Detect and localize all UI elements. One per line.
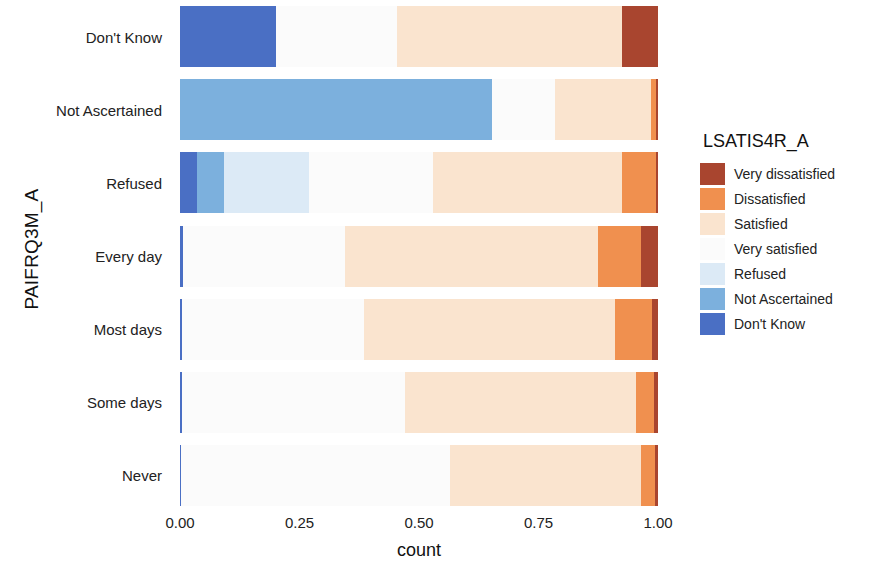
legend-title: LSATIS4R_A — [703, 131, 874, 152]
bar-segment[interactable] — [309, 152, 433, 213]
legend-item[interactable]: Refused — [700, 261, 874, 286]
bar-segment[interactable] — [182, 299, 364, 360]
legend-swatch-icon — [700, 213, 725, 235]
bar-segment[interactable] — [656, 79, 658, 140]
bar-segment[interactable] — [492, 79, 555, 140]
y-axis-tick-label: Every day — [2, 248, 162, 265]
legend-item-label: Dissatisfied — [734, 191, 806, 207]
bar-row[interactable] — [180, 226, 658, 287]
bar-segment[interactable] — [224, 152, 309, 213]
legend-item[interactable]: Dissatisfied — [700, 186, 874, 211]
bar-segment[interactable] — [636, 372, 654, 433]
bar-row[interactable] — [180, 6, 658, 67]
x-axis-title: count — [180, 540, 658, 561]
bar-segment[interactable] — [655, 445, 658, 506]
bar-segment[interactable] — [345, 226, 598, 287]
y-axis-tick-label: Not Ascertained — [2, 101, 162, 118]
bar-segment[interactable] — [197, 152, 224, 213]
x-axis-tick-label: 0.25 — [285, 514, 314, 531]
y-axis-tick-label: Most days — [2, 321, 162, 338]
legend-swatch-icon — [700, 188, 725, 210]
legend-item-label: Not Ascertained — [734, 291, 833, 307]
legend-swatch-icon — [700, 238, 725, 260]
bar-row[interactable] — [180, 299, 658, 360]
x-axis-tick-label: 0.00 — [165, 514, 194, 531]
bar-segment[interactable] — [652, 299, 658, 360]
bar-segment[interactable] — [598, 226, 641, 287]
legend-items: Very dissatisfiedDissatisfiedSatisfiedVe… — [700, 161, 874, 336]
legend-item-label: Refused — [734, 266, 786, 282]
legend: LSATIS4R_A Very dissatisfiedDissatisfied… — [700, 131, 874, 336]
legend-item[interactable]: Very dissatisfied — [700, 161, 874, 186]
legend-item[interactable]: Satisfied — [700, 211, 874, 236]
bar-row[interactable] — [180, 445, 658, 506]
bar-segment[interactable] — [622, 6, 658, 67]
legend-swatch-icon — [700, 163, 725, 185]
legend-swatch-icon — [700, 288, 725, 310]
legend-item[interactable]: Very satisfied — [700, 236, 874, 261]
x-axis-tick-label: 0.75 — [524, 514, 553, 531]
bar-segment[interactable] — [183, 226, 345, 287]
bar-segment[interactable] — [641, 226, 658, 287]
y-axis-tick-label: Some days — [2, 394, 162, 411]
x-axis-tick-labels: 0.000.250.500.751.00 — [180, 514, 658, 538]
y-axis-tick-label: Refused — [2, 174, 162, 191]
bar-segment[interactable] — [555, 79, 651, 140]
legend-item[interactable]: Don't Know — [700, 311, 874, 336]
legend-item-label: Satisfied — [734, 216, 788, 232]
bar-row[interactable] — [180, 152, 658, 213]
bar-segment[interactable] — [397, 6, 622, 67]
bar-segment[interactable] — [182, 372, 405, 433]
bar-row[interactable] — [180, 372, 658, 433]
y-axis-tick-label: Never — [2, 467, 162, 484]
bar-segment[interactable] — [180, 6, 276, 67]
y-axis-tick-label: Don't Know — [2, 28, 162, 45]
bar-segment[interactable] — [180, 152, 197, 213]
bar-segment[interactable] — [615, 299, 652, 360]
y-axis-tick-labels: Don't KnowNot AscertainedRefusedEvery da… — [0, 0, 172, 512]
bar-segment[interactable] — [180, 79, 492, 140]
bar-row[interactable] — [180, 79, 658, 140]
plot-area — [180, 0, 658, 512]
legend-item-label: Don't Know — [734, 316, 805, 332]
legend-swatch-icon — [700, 313, 725, 335]
bar-segment[interactable] — [622, 152, 656, 213]
legend-swatch-icon — [700, 263, 725, 285]
legend-item-label: Very dissatisfied — [734, 166, 835, 182]
bar-segment[interactable] — [364, 299, 615, 360]
x-axis-tick-label: 0.50 — [404, 514, 433, 531]
bar-segment[interactable] — [656, 152, 658, 213]
bar-segment[interactable] — [641, 445, 655, 506]
bar-segment[interactable] — [654, 372, 658, 433]
bar-segment[interactable] — [276, 6, 398, 67]
legend-item-label: Very satisfied — [734, 241, 817, 257]
stacked-bar-chart: PAIFRQ3M_A Don't KnowNot AscertainedRefu… — [0, 0, 874, 569]
bar-segment[interactable] — [181, 445, 450, 506]
bar-segment[interactable] — [405, 372, 637, 433]
bar-segment[interactable] — [433, 152, 622, 213]
x-axis-tick-label: 1.00 — [643, 514, 672, 531]
legend-item[interactable]: Not Ascertained — [700, 286, 874, 311]
bar-segment[interactable] — [450, 445, 641, 506]
